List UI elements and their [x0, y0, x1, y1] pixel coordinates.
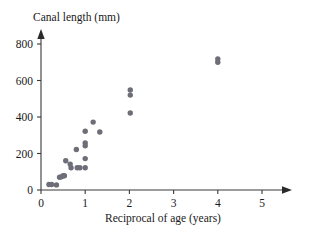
y-axis-arrow-icon [37, 29, 44, 39]
y-axis-group [37, 29, 44, 190]
data-point [77, 165, 82, 170]
y-axis-ticks [37, 44, 41, 190]
data-point [128, 92, 133, 97]
y-tick-label: 0 [27, 184, 33, 196]
data-point [97, 129, 102, 134]
y-tick-label: 400 [16, 111, 34, 123]
x-tick-label: 0 [38, 197, 44, 209]
data-point [63, 158, 68, 163]
data-point [68, 165, 73, 170]
scatter-chart: 0200400600800 012345 Canal length (mm) R… [0, 0, 311, 238]
y-tick-label: 200 [16, 148, 34, 160]
x-axis-arrow-icon [282, 186, 292, 193]
x-tick-label: 5 [259, 197, 265, 209]
data-point [54, 182, 59, 187]
x-tick-label: 4 [215, 197, 221, 209]
data-point [83, 165, 88, 170]
data-point [62, 173, 67, 178]
data-point [49, 182, 54, 187]
plot-area: 0200400600800 012345 Canal length (mm) R… [0, 0, 311, 238]
x-tick-label: 3 [171, 197, 177, 209]
data-point [83, 143, 88, 148]
data-point [83, 129, 88, 134]
data-point [74, 147, 79, 152]
data-point [215, 60, 220, 65]
data-point-series [46, 56, 220, 187]
x-tick-label: 1 [82, 197, 88, 209]
y-axis-title: Canal length (mm) [33, 11, 120, 24]
data-point [128, 110, 133, 115]
x-axis-ticks [41, 190, 262, 194]
data-point [83, 156, 88, 161]
y-tick-label: 600 [16, 75, 34, 87]
y-axis-tick-labels: 0200400600800 [16, 38, 34, 196]
x-axis-title: Reciprocal of age (years) [105, 212, 221, 225]
x-axis-tick-labels: 012345 [38, 197, 265, 209]
x-tick-label: 2 [127, 197, 133, 209]
data-point [90, 119, 95, 124]
y-tick-label: 800 [16, 38, 34, 50]
data-point [128, 87, 133, 92]
x-axis-group [41, 186, 292, 193]
